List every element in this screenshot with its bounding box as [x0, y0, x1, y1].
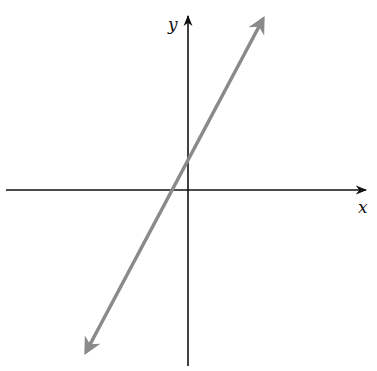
graph-line	[86, 19, 263, 352]
x-axis-label: x	[358, 197, 368, 217]
coordinate-plane: y x	[0, 0, 377, 371]
y-axis-label: y	[167, 14, 178, 34]
